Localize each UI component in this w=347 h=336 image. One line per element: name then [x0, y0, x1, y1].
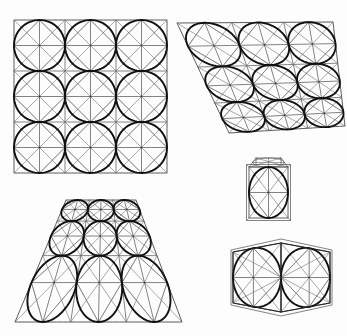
- cell-center-dot: [100, 209, 102, 211]
- cell-center-dot: [90, 147, 92, 149]
- cell-center-dot: [99, 282, 101, 284]
- figure-two-cell-pair: [231, 239, 332, 316]
- cell-center-dot: [213, 45, 215, 47]
- grid-cell: [65, 20, 116, 71]
- cell-center-dot: [318, 81, 320, 83]
- grid-cell: [116, 71, 167, 122]
- cell-center-dot: [141, 96, 143, 98]
- cell-center-dot: [39, 147, 41, 149]
- grid-cell: [65, 71, 116, 122]
- grid-cell: [14, 122, 65, 173]
- cell-center-dot: [144, 282, 146, 284]
- cell-center-dot: [39, 45, 41, 47]
- figure-canvas: [0, 0, 347, 336]
- grid-cell: [116, 122, 167, 173]
- figure-frontal-grid: [14, 20, 167, 173]
- cell-center-dot: [132, 235, 134, 237]
- cell-center-dot: [141, 45, 143, 47]
- cell-center-dot: [268, 192, 270, 194]
- cell-center-dot: [284, 115, 286, 117]
- cell-center-dot: [74, 209, 76, 211]
- cell-center-dot: [308, 277, 310, 279]
- grid-cell: [249, 167, 288, 218]
- cell-center-dot: [243, 117, 245, 119]
- cell-center-dot: [53, 282, 55, 284]
- cell-center-dot: [229, 84, 231, 86]
- cell-center-dot: [90, 45, 92, 47]
- grid-cell: [116, 20, 167, 71]
- cell-center-dot: [126, 209, 128, 211]
- cell-center-dot: [253, 277, 255, 279]
- cell-center-dot: [275, 83, 277, 85]
- cell-center-dot: [99, 235, 101, 237]
- cell-center-dot: [67, 235, 69, 237]
- cell-center-dot: [312, 43, 314, 45]
- cell-center-dot: [323, 112, 325, 114]
- canvas-background: [0, 0, 347, 336]
- cell-center-dot: [90, 96, 92, 98]
- grid-cell: [14, 71, 65, 122]
- cell-center-dot: [141, 147, 143, 149]
- grid-cell: [65, 122, 116, 173]
- cell-center-dot: [39, 96, 41, 98]
- cell-center-dot: [264, 44, 266, 46]
- grid-cell: [14, 20, 65, 71]
